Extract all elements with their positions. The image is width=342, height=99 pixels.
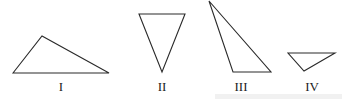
triangle-i-label: I — [59, 79, 63, 94]
triangle-i: I — [13, 36, 109, 94]
triangle-iii-label: III — [235, 79, 248, 94]
triangle-ii-label: II — [158, 79, 167, 94]
triangle-ii: II — [139, 14, 185, 94]
triangle-iii: III — [209, 1, 271, 94]
triangles-diagram: I II III IV — [0, 0, 342, 99]
triangle-iv-label: IV — [305, 79, 319, 94]
triangle-iv: IV — [288, 53, 335, 94]
